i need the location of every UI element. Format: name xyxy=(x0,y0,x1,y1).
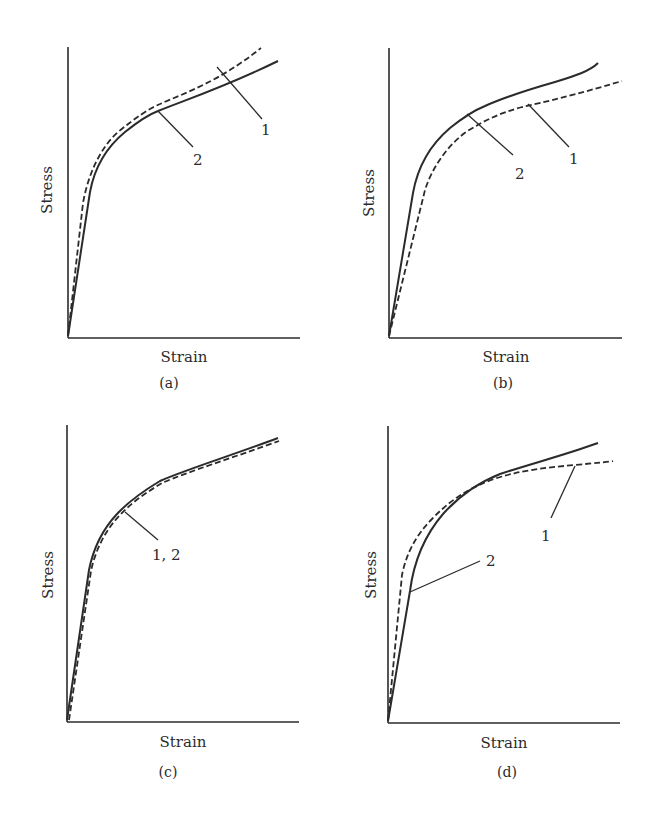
panel-c: 1, 2 Strain Stress (c) xyxy=(39,425,299,780)
leader-2 xyxy=(410,561,480,592)
curve-1 xyxy=(68,48,261,336)
panel-d: 2 1 Strain Stress (d) xyxy=(362,426,620,780)
curve-2 xyxy=(67,438,278,720)
leader-1 xyxy=(217,67,262,119)
curve-label-1: 1 xyxy=(541,527,551,545)
curve-2 xyxy=(389,63,598,336)
y-axis-label: Stress xyxy=(38,166,56,214)
curve-label-1: 1 xyxy=(569,150,579,168)
panel-caption: (b) xyxy=(493,375,513,391)
panel-a: 2 1 Strain Stress (a) xyxy=(38,47,300,391)
leader-12 xyxy=(125,512,158,540)
leader-1 xyxy=(528,104,569,147)
panel-caption: (d) xyxy=(497,764,517,780)
x-axis-label: Strain xyxy=(161,348,208,366)
y-axis-label: Stress xyxy=(360,169,378,217)
curve-1 xyxy=(389,81,622,336)
y-axis-label: Stress xyxy=(362,551,380,599)
x-axis-label: Strain xyxy=(481,734,528,752)
leader-2 xyxy=(158,111,193,147)
panel-caption: (c) xyxy=(159,764,178,780)
x-axis-label: Strain xyxy=(160,733,207,751)
curve-1 xyxy=(388,461,613,721)
curve-1 xyxy=(69,441,279,720)
figure: 2 1 Strain Stress (a) 2 1 Strain Stress … xyxy=(0,0,650,827)
x-axis-label: Strain xyxy=(483,348,530,366)
curve-label-2: 2 xyxy=(486,552,496,570)
curve-label-1-2: 1, 2 xyxy=(152,546,181,564)
y-axis-label: Stress xyxy=(39,551,57,599)
curve-label-1: 1 xyxy=(261,121,271,139)
curve-label-2: 2 xyxy=(515,165,525,183)
panel-b: 2 1 Strain Stress (b) xyxy=(360,48,622,391)
curve-2 xyxy=(68,61,278,336)
curve-label-2: 2 xyxy=(193,151,203,169)
leader-2 xyxy=(467,114,513,155)
leader-1 xyxy=(551,466,575,518)
panel-caption: (a) xyxy=(159,375,178,391)
